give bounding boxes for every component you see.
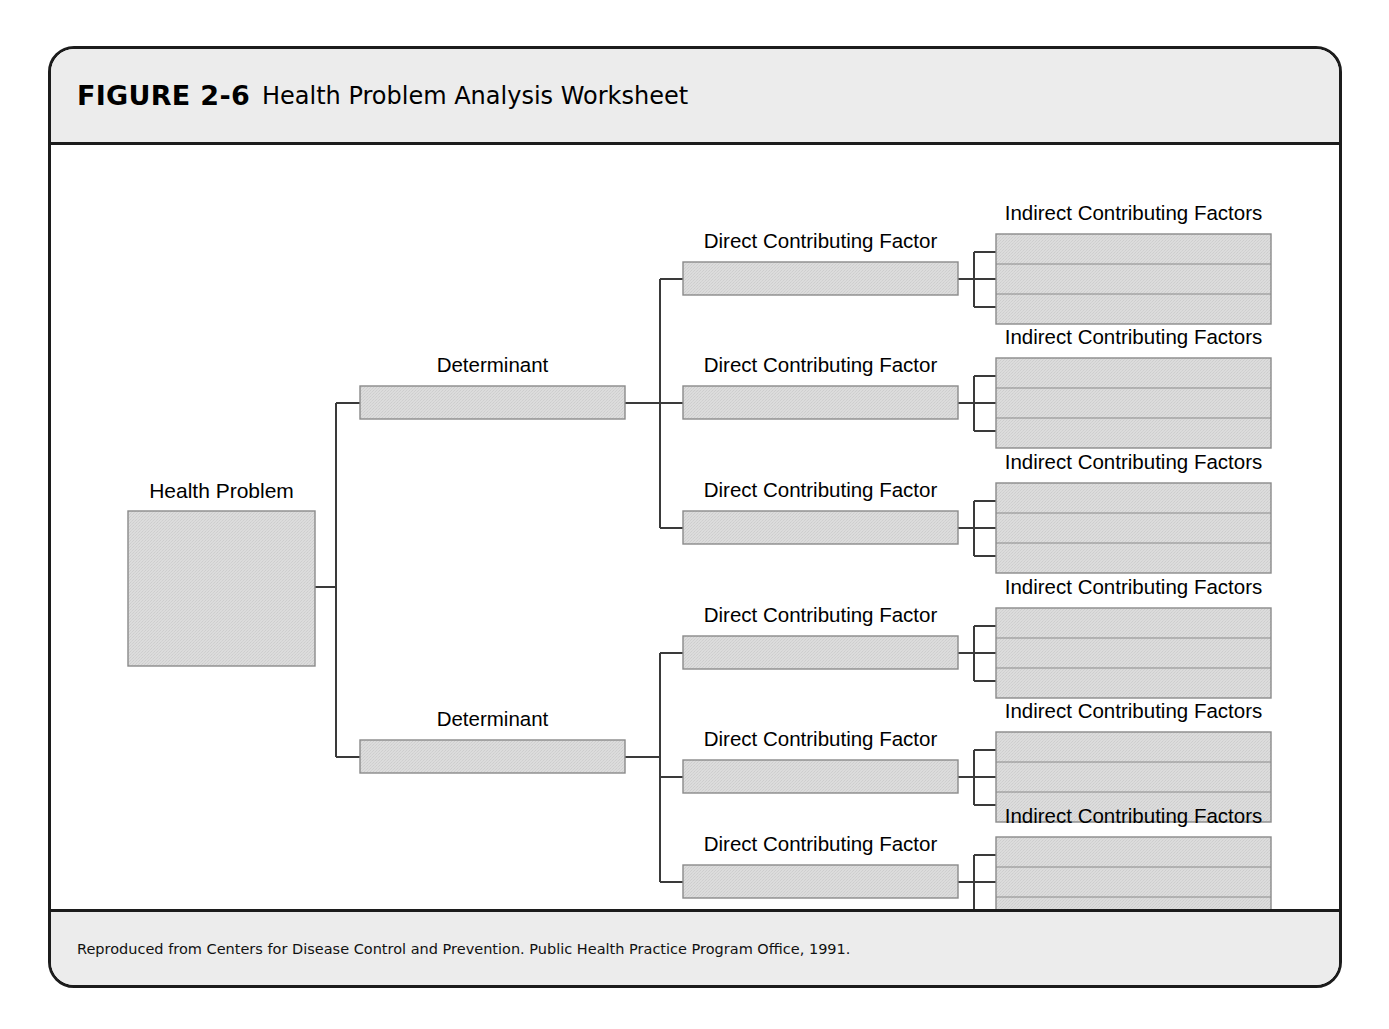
indirect-block-4-outline[interactable] — [996, 608, 1271, 698]
indirect-block-6-outline[interactable] — [996, 837, 1271, 909]
direct-contributing-factor-box-6[interactable] — [683, 865, 958, 898]
health-problem-analysis-worksheet-diagram: Health Problem Determinant Determinant D… — [51, 145, 1339, 909]
indirect-contributing-factors-block-2[interactable] — [996, 358, 1271, 448]
indirect-contributing-factors-block-4[interactable] — [996, 608, 1271, 698]
indirect-block-1-outline[interactable] — [996, 234, 1271, 324]
figure-header: FIGURE 2-6 Health Problem Analysis Works… — [51, 49, 1339, 145]
health-problem-label: Health Problem — [128, 480, 315, 501]
figure-title: Health Problem Analysis Worksheet — [262, 82, 688, 110]
direct-contributing-factor-label-1: Direct Contributing Factor — [683, 231, 958, 252]
direct-contributing-factor-box-5[interactable] — [683, 760, 958, 793]
figure-source-credit: Reproduced from Centers for Disease Cont… — [77, 941, 850, 957]
direct-contributing-factor-label-4: Direct Contributing Factor — [683, 605, 958, 626]
health-problem-box[interactable] — [128, 511, 315, 666]
direct-contributing-factor-box-4[interactable] — [683, 636, 958, 669]
direct-contributing-factor-label-2: Direct Contributing Factor — [683, 355, 958, 376]
indirect-contributing-factors-label-3: Indirect Contributing Factors — [996, 452, 1271, 473]
indirect-contributing-factors-label-5: Indirect Contributing Factors — [996, 701, 1271, 722]
direct-contributing-factor-box-1[interactable] — [683, 262, 958, 295]
figure-frame: FIGURE 2-6 Health Problem Analysis Works… — [48, 46, 1342, 988]
direct-contributing-factor-box-3[interactable] — [683, 511, 958, 544]
direct-contributing-factor-label-3: Direct Contributing Factor — [683, 480, 958, 501]
indirect-contributing-factors-label-6: Indirect Contributing Factors — [996, 806, 1271, 827]
direct-contributing-factor-label-6: Direct Contributing Factor — [683, 834, 958, 855]
figure-number-label: FIGURE 2-6 — [77, 80, 250, 111]
determinant-label-1: Determinant — [360, 355, 625, 376]
direct-contributing-factor-label-5: Direct Contributing Factor — [683, 729, 958, 750]
determinant-box-1[interactable] — [360, 386, 625, 419]
indirect-contributing-factors-label-2: Indirect Contributing Factors — [996, 327, 1271, 348]
indirect-contributing-factors-block-3[interactable] — [996, 483, 1271, 573]
figure-footer: Reproduced from Centers for Disease Cont… — [51, 909, 1339, 985]
direct-contributing-factor-box-2[interactable] — [683, 386, 958, 419]
connector-lines — [315, 252, 996, 909]
determinant-box-2[interactable] — [360, 740, 625, 773]
indirect-block-3-outline[interactable] — [996, 483, 1271, 573]
indirect-contributing-factors-label-4: Indirect Contributing Factors — [996, 577, 1271, 598]
worksheet-tree-svg — [51, 145, 1339, 909]
indirect-contributing-factors-label-1: Indirect Contributing Factors — [996, 203, 1271, 224]
indirect-contributing-factors-block-1[interactable] — [996, 234, 1271, 324]
indirect-contributing-factors-block-6[interactable] — [996, 837, 1271, 909]
indirect-block-2-outline[interactable] — [996, 358, 1271, 448]
determinant-label-2: Determinant — [360, 709, 625, 730]
